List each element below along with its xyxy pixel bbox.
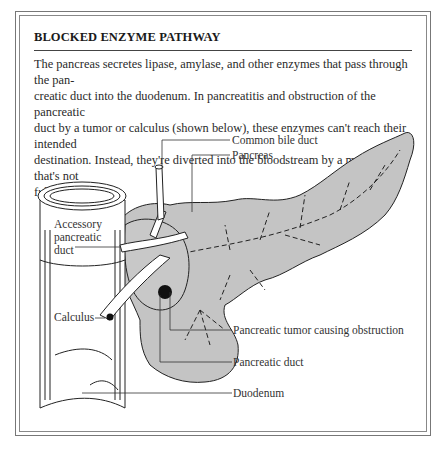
label-pancreatic-duct: Pancreatic duct	[233, 356, 304, 369]
label-common-bile-duct: Common bile duct	[232, 134, 318, 147]
label-calculus: Calculus	[54, 311, 94, 324]
label-tumor: Pancreatic tumor causing obstruction	[233, 324, 404, 337]
calculus	[107, 314, 114, 321]
duodenum	[38, 182, 126, 408]
label-duodenum: Duodenum	[233, 387, 284, 400]
label-accessory-duct-3: duct	[54, 244, 74, 257]
label-accessory-duct-2: pancreatic	[54, 231, 101, 244]
label-pancreas: Pancreas	[232, 149, 273, 162]
label-accessory-duct-1: Accessory	[54, 218, 102, 231]
